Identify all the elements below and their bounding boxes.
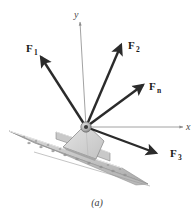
vector-label-f2: F [128,39,135,51]
figure-container: y x F 1 F 2 F n F 3 (a) [0,0,195,219]
vector-subscript-f3: 3 [178,153,182,162]
vector-arrow-f1 [41,57,86,127]
vector-label-fn: F [149,80,156,92]
vector-label-f3: F [170,147,177,159]
force-diagram: y x F 1 F 2 F n F 3 (a) [0,0,195,219]
vector-subscript-f1: 1 [34,48,38,57]
vector-labels: F 1 F 2 F n F 3 [26,39,182,162]
vector-label-f1: F [26,42,33,54]
vector-subscript-fn: n [157,86,162,95]
vector-subscript-f2: 2 [136,45,140,54]
x-axis-label: x [185,121,191,132]
y-axis-line [80,22,86,127]
concurrency-point [81,122,91,132]
figure-caption: (a) [91,197,103,209]
y-axis-label: y [73,9,79,20]
